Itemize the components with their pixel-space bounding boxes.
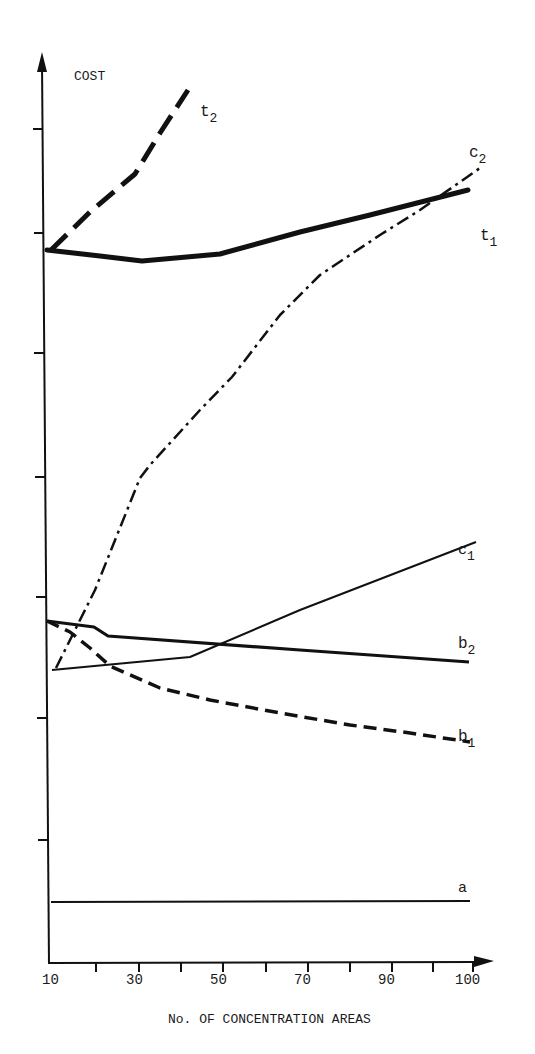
label-c2: c2: [469, 144, 486, 167]
label-t2: t2: [200, 103, 217, 126]
y-axis-title: COST: [74, 69, 105, 84]
y-axis: COST: [33, 52, 105, 964]
x-axis: 10 30 50 70 90 100 No. OF CONCENTRATION …: [42, 956, 494, 1027]
x-axis-title: No. OF CONCENTRATION AREAS: [168, 1012, 371, 1027]
x-tick-label: 10: [42, 972, 59, 988]
x-tick-label: 100: [455, 972, 480, 988]
series-lines: [47, 90, 480, 902]
line-t1: [47, 190, 468, 261]
line-c1: [52, 542, 476, 670]
label-c1: c1: [458, 542, 475, 564]
label-b1: b1: [458, 728, 476, 751]
cost-chart: COST 10 30 50 70 90 100 No. OF CONCENTRA…: [0, 0, 535, 1054]
x-tick-label: 30: [126, 972, 143, 988]
y-axis-arrow-icon: [37, 52, 47, 72]
x-axis-tick-labels: 10 30 50 70 90 100: [42, 972, 480, 988]
x-tick-label: 70: [294, 972, 311, 988]
x-tick-label: 50: [210, 972, 227, 988]
label-a: a: [458, 880, 467, 897]
label-b2: b2: [458, 635, 475, 658]
line-t2: [51, 90, 188, 250]
x-axis-arrow-icon: [474, 956, 494, 967]
label-t1: t1: [480, 227, 498, 250]
x-tick-label: 90: [378, 972, 395, 988]
line-a: [51, 901, 470, 902]
line-b1: [47, 621, 470, 742]
